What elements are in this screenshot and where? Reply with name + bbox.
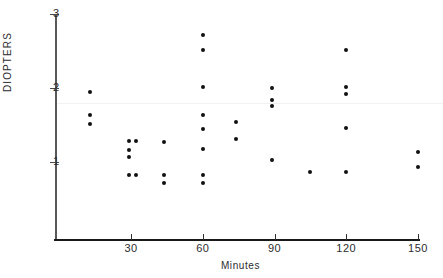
data-point xyxy=(201,48,205,52)
plot-area: 123 306090120150 DIOPTERS Minutes xyxy=(0,0,443,278)
data-point xyxy=(127,139,131,143)
y-tick-label: 1 xyxy=(45,156,59,167)
x-axis-line xyxy=(54,239,420,241)
data-point xyxy=(234,137,238,141)
x-tick-mark xyxy=(418,234,419,240)
data-point xyxy=(162,173,166,177)
data-point xyxy=(134,139,138,143)
x-tick-label: 150 xyxy=(403,243,433,254)
data-point xyxy=(201,127,205,131)
data-point xyxy=(162,181,166,185)
data-point xyxy=(270,104,274,108)
data-point xyxy=(201,181,205,185)
data-point xyxy=(201,113,205,117)
data-point xyxy=(344,85,348,89)
x-tick-label: 90 xyxy=(260,243,290,254)
x-tick-mark xyxy=(203,234,204,240)
data-point xyxy=(344,92,348,96)
data-point xyxy=(201,173,205,177)
x-tick-label: 120 xyxy=(331,243,361,254)
data-point xyxy=(416,150,420,154)
y-axis-line xyxy=(55,14,57,241)
y-tick-label: 2 xyxy=(45,82,59,93)
data-point xyxy=(162,140,166,144)
data-point xyxy=(344,126,348,130)
y-tick-group: 3 xyxy=(0,14,59,15)
data-point xyxy=(344,170,348,174)
data-point xyxy=(201,147,205,151)
data-point xyxy=(201,85,205,89)
data-point xyxy=(201,33,205,37)
data-point xyxy=(88,90,92,94)
data-point xyxy=(270,86,274,90)
data-point xyxy=(127,173,131,177)
y-axis-title: DIOPTERS xyxy=(2,32,13,92)
x-tick-label: 30 xyxy=(116,243,146,254)
scatter-plot-figure: 123 306090120150 DIOPTERS Minutes xyxy=(0,0,443,278)
data-point xyxy=(344,48,348,52)
data-point xyxy=(308,170,312,174)
data-point xyxy=(127,148,131,152)
y-tick-label: 3 xyxy=(45,8,59,19)
data-point xyxy=(88,122,92,126)
data-point xyxy=(127,155,131,159)
data-point xyxy=(234,120,238,124)
data-point xyxy=(270,158,274,162)
x-tick-label: 60 xyxy=(188,243,218,254)
x-tick-mark xyxy=(346,234,347,240)
x-axis-title: Minutes xyxy=(221,260,260,271)
data-point xyxy=(88,113,92,117)
data-point xyxy=(134,173,138,177)
faint-horizontal-artifact xyxy=(57,103,443,104)
data-point xyxy=(416,165,420,169)
x-tick-mark xyxy=(275,234,276,240)
x-tick-mark xyxy=(131,234,132,240)
y-tick-group: 1 xyxy=(0,162,59,163)
x-axis-title-wrap: Minutes xyxy=(0,260,443,271)
data-point xyxy=(270,98,274,102)
